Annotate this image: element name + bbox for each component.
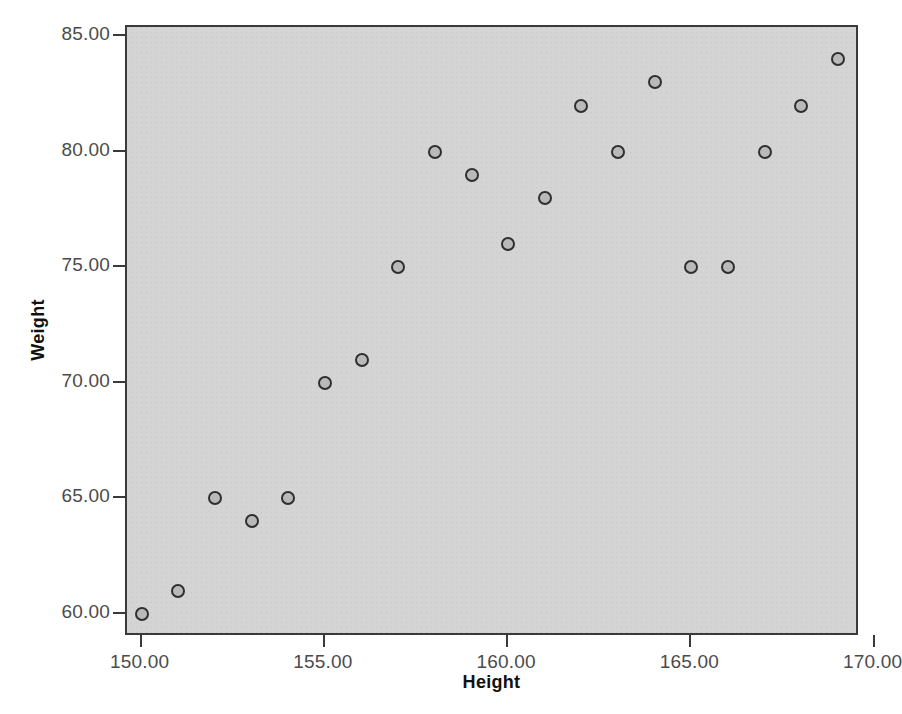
data-point <box>684 260 698 274</box>
data-point <box>428 145 442 159</box>
data-point <box>538 191 552 205</box>
data-point <box>208 491 222 505</box>
data-point <box>391 260 405 274</box>
data-point <box>501 237 515 251</box>
y-tick-label: 60.00 <box>61 601 110 623</box>
data-point <box>355 353 369 367</box>
x-tick-label: 170.00 <box>843 651 902 673</box>
y-tick-label: 80.00 <box>61 139 110 161</box>
y-tick-mark <box>113 381 125 383</box>
x-tick-mark <box>689 635 691 647</box>
data-point <box>794 99 808 113</box>
y-tick-mark <box>113 150 125 152</box>
y-axis-title: Weight <box>28 299 49 360</box>
y-tick-label: 85.00 <box>61 23 110 45</box>
x-tick-mark <box>140 635 142 647</box>
data-point <box>611 145 625 159</box>
y-tick-label: 65.00 <box>61 485 110 507</box>
y-tick-label: 70.00 <box>61 370 110 392</box>
x-tick-mark <box>506 635 508 647</box>
x-tick-label: 150.00 <box>110 651 169 673</box>
x-tick-label: 160.00 <box>476 651 535 673</box>
y-tick-mark <box>113 612 125 614</box>
data-point <box>171 584 185 598</box>
data-point <box>465 168 479 182</box>
x-tick-mark <box>323 635 325 647</box>
figure-caption <box>30 702 630 714</box>
plot-area <box>125 25 858 635</box>
data-point <box>281 491 295 505</box>
data-point <box>318 376 332 390</box>
x-tick-mark <box>873 635 875 647</box>
y-tick-mark <box>113 496 125 498</box>
y-tick-mark <box>113 34 125 36</box>
data-point <box>648 75 662 89</box>
data-point <box>758 145 772 159</box>
data-point <box>831 52 845 66</box>
y-tick-label: 75.00 <box>61 254 110 276</box>
data-point <box>574 99 588 113</box>
x-tick-label: 165.00 <box>660 651 719 673</box>
x-axis-title: Height <box>125 672 858 693</box>
x-tick-label: 155.00 <box>293 651 352 673</box>
y-tick-mark <box>113 265 125 267</box>
data-point <box>135 607 149 621</box>
data-point <box>721 260 735 274</box>
data-point <box>245 514 259 528</box>
